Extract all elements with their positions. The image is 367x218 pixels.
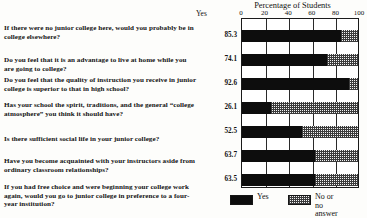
bar-segment-no <box>341 30 358 42</box>
bar-segment-no <box>349 78 358 90</box>
bar-row <box>242 54 358 66</box>
bar-chart: Percentage of Students Yes 020406080100 … <box>196 0 367 218</box>
bar-segment-no <box>302 126 358 138</box>
question-text: Has your school the spirit, traditions, … <box>4 101 196 118</box>
bar-segment-yes <box>242 174 317 186</box>
bar-value-label: 92.6 <box>196 77 237 89</box>
survey-chart-figure: If there were no junior college here, wo… <box>0 0 367 218</box>
x-tick-label: 80 <box>332 9 339 18</box>
bar-segment-yes <box>242 102 273 114</box>
x-tick-label: 0 <box>239 9 243 18</box>
chart-legend: YesNo or no answer <box>230 194 367 216</box>
bar-row <box>242 102 358 114</box>
x-tick-label: 100 <box>354 9 365 18</box>
question-text: Is there sufficient social life in your … <box>4 135 196 144</box>
bar-segment-yes <box>242 30 343 42</box>
bar-value-label: 63.5 <box>196 173 237 185</box>
bar-segment-no <box>271 102 358 114</box>
question-text: If there were no junior college here, wo… <box>4 24 196 41</box>
bar-segment-yes <box>242 78 351 90</box>
legend-label: Yes <box>257 193 269 202</box>
bar-segment-no <box>315 174 358 186</box>
question-text: If you had free choice and were beginnin… <box>4 183 196 209</box>
bar-segment-no <box>315 150 358 162</box>
bar-segment-no <box>327 54 358 66</box>
bar-segment-yes <box>242 126 304 138</box>
x-tick-label: 60 <box>308 9 315 18</box>
x-tick-label: 40 <box>285 9 292 18</box>
legend-swatch <box>230 195 253 205</box>
x-axis-tick-labels: 020406080100 <box>241 9 367 18</box>
question-text: Do you feel that the quality of instruct… <box>4 76 196 93</box>
bar-segment-yes <box>242 54 329 66</box>
bar-value-label: 85.3 <box>196 29 237 41</box>
bar-value-label: 63.7 <box>196 149 237 161</box>
bar-value-label: 26.1 <box>196 101 237 113</box>
question-text: Have you become acquainted with your ins… <box>4 157 196 174</box>
plot-area <box>241 18 359 188</box>
bar-value-label: 74.1 <box>196 53 237 65</box>
yes-axis-label: Yes <box>196 10 207 18</box>
legend-swatch <box>288 195 311 205</box>
legend-label: No or no answer <box>315 193 338 218</box>
bar-row <box>242 126 358 138</box>
bar-row <box>242 150 358 162</box>
bar-segment-yes <box>242 150 317 162</box>
bar-row <box>242 174 358 186</box>
bar-value-label: 52.5 <box>196 125 237 137</box>
question-text: Do you feel that it is an advantage to l… <box>4 56 196 73</box>
bar-row <box>242 30 358 42</box>
bar-row <box>242 78 358 90</box>
x-tick-label: 20 <box>261 9 268 18</box>
